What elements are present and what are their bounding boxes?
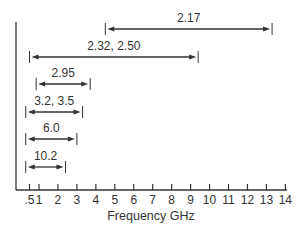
x-tick-label: 6 [130,193,137,207]
range-bar: 2.95 [36,66,90,90]
x-tick-label: 4 [93,193,100,207]
range-bar: 2.17 [105,11,272,35]
arrow-left-icon [107,27,114,32]
x-tick-label: 10 [203,193,217,207]
x-tick-label: 1 [36,193,43,207]
arrow-left-icon [28,137,35,142]
range-label: 10.2 [34,149,58,163]
arrow-right-icon [263,27,270,32]
x-tick-label: 9 [187,193,194,207]
range-bar: 3.2, 3.5 [26,94,83,118]
x-ticks: .51234567891011121314 [25,184,293,207]
range-label: 6.0 [43,121,60,135]
x-tick-label: 3 [74,193,81,207]
arrow-left-icon [38,82,45,87]
range-bars: 2.172.32, 2.502.953.2, 3.56.010.2 [26,11,272,173]
arrow-left-icon [32,55,39,60]
x-tick-label: 2 [55,193,62,207]
x-axis-title: Frequency GHz [107,209,195,223]
x-tick-label: 12 [241,193,255,207]
x-tick-label: 14 [279,193,293,207]
arrow-right-icon [189,55,196,60]
x-tick-label: .5 [25,193,35,207]
x-tick-label: 13 [260,193,274,207]
range-label: 2.17 [177,11,201,25]
arrow-right-icon [57,165,64,170]
x-tick-label: 7 [149,193,156,207]
x-tick-label: 8 [168,193,175,207]
x-tick-label: 5 [111,193,118,207]
arrow-right-icon [74,110,81,115]
arrow-left-icon [28,165,35,170]
range-label: 3.2, 3.5 [34,94,74,108]
range-bar: 6.0 [26,121,77,145]
range-label: 2.32, 2.50 [87,39,141,53]
range-bar: 2.32, 2.50 [30,39,199,63]
range-bar: 10.2 [26,149,66,173]
arrow-left-icon [28,110,35,115]
frequency-range-chart: .51234567891011121314 2.172.32, 2.502.95… [0,0,301,233]
range-label: 2.95 [51,66,75,80]
arrow-right-icon [81,82,88,87]
x-tick-label: 11 [222,193,235,207]
arrow-right-icon [68,137,75,142]
